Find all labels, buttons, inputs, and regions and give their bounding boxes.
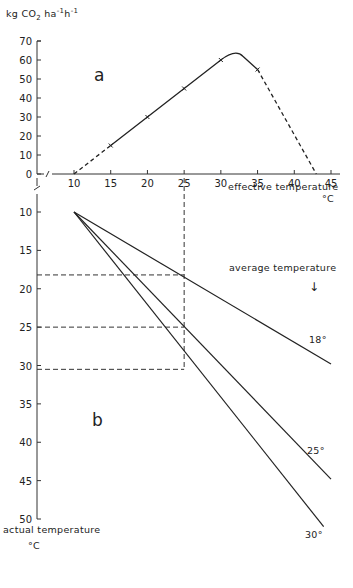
y-tick-label: 15 bbox=[19, 245, 32, 256]
data-marker bbox=[145, 115, 149, 119]
y-tick-label: 40 bbox=[19, 93, 32, 104]
y-tick-label: 20 bbox=[19, 131, 32, 142]
x-tick-label: 10 bbox=[68, 178, 81, 189]
y-tick-label: 70 bbox=[19, 36, 32, 47]
x-axis-label: effective temperature bbox=[228, 181, 338, 192]
data-marker bbox=[219, 58, 223, 62]
x-tick-label: 15 bbox=[104, 178, 117, 189]
y-tick-label: 45 bbox=[19, 476, 32, 487]
panel-label-b: b bbox=[92, 410, 103, 430]
data-marker bbox=[182, 87, 186, 91]
data-marker bbox=[256, 68, 260, 72]
panel-label-a: a bbox=[94, 65, 104, 85]
panel-b: 101520253035404550 actual temperature °C… bbox=[3, 178, 336, 551]
legend-arrow-icon: ↓ bbox=[309, 280, 319, 294]
co2-curve bbox=[74, 53, 316, 174]
legend-title: average temperature bbox=[229, 262, 336, 273]
y-tick-label: 20 bbox=[19, 284, 32, 295]
y-tick-label: 60 bbox=[19, 55, 32, 66]
y-tick-label: 30 bbox=[19, 112, 32, 123]
y-tick-label: 25 bbox=[19, 322, 32, 333]
y-axis-unit-b: °C bbox=[28, 540, 40, 551]
avg-temp-line bbox=[74, 212, 331, 479]
y-axis-label-a: kg CO2 ha-1h-1 bbox=[6, 7, 78, 22]
y-tick-label: 0 bbox=[26, 169, 32, 180]
y-tick-label: 35 bbox=[19, 399, 32, 410]
y-tick-label: 50 bbox=[19, 74, 32, 85]
y-tick-label: 10 bbox=[19, 207, 32, 218]
series-label: 25° bbox=[307, 445, 325, 456]
series-label: 30° bbox=[305, 529, 323, 540]
y-axis-label-b: actual temperature bbox=[3, 524, 100, 535]
y-tick-label: 30 bbox=[19, 361, 32, 372]
avg-temp-line bbox=[74, 212, 331, 364]
x-tick-label: 30 bbox=[214, 178, 227, 189]
x-axis-unit: °C bbox=[322, 193, 334, 204]
y-tick-label: 10 bbox=[19, 150, 32, 161]
y-tick-label: 40 bbox=[19, 437, 32, 448]
co2-temperature-chart: kg CO2 ha-1h-1 010203040506070 101520253… bbox=[0, 0, 353, 588]
data-marker bbox=[109, 144, 113, 148]
panel-a: kg CO2 ha-1h-1 010203040506070 101520253… bbox=[6, 7, 340, 204]
reference-lines bbox=[37, 178, 184, 369]
series-label: 18° bbox=[309, 334, 327, 345]
x-tick-label: 20 bbox=[141, 178, 154, 189]
